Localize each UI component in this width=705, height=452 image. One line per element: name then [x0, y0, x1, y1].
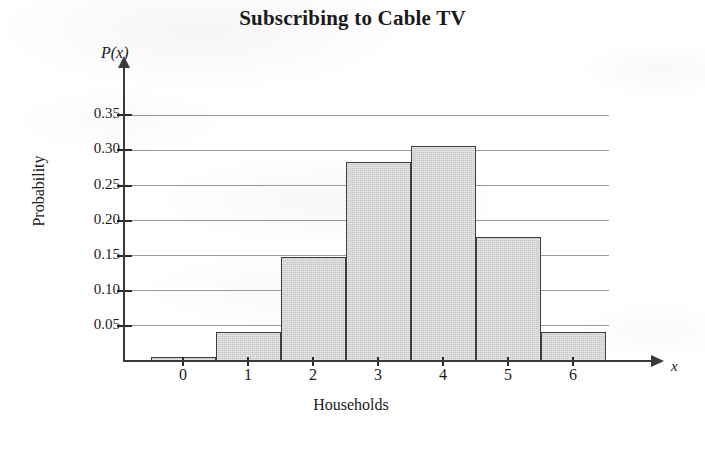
y-tick-label: 0.05 [74, 317, 120, 332]
y-tick-label: 0.25 [74, 177, 120, 192]
gridline [124, 115, 609, 116]
histogram-bar [281, 257, 346, 361]
x-tick-label: 1 [233, 366, 263, 384]
gridline [124, 150, 609, 151]
y-axis-arrow-icon [118, 56, 130, 68]
x-tick-label: 5 [493, 366, 523, 384]
x-tick-label: 3 [363, 366, 393, 384]
x-axis-line [123, 360, 655, 362]
y-axis-line [123, 66, 125, 362]
y-tick-label: 0.10 [74, 282, 120, 297]
histogram-plot: P(x) x Probability Households 0.050.100.… [0, 0, 705, 452]
x-tick-label: 4 [428, 366, 458, 384]
histogram-bar [476, 237, 541, 361]
y-tick-label: 0.20 [74, 212, 120, 227]
histogram-bar [346, 162, 411, 361]
x-axis-arrow-icon [651, 355, 664, 367]
y-axis-title: Probability [30, 116, 48, 266]
x-axis-symbol: x [671, 358, 678, 375]
x-tick-label: 0 [168, 366, 198, 384]
y-tick-label: 0.15 [74, 247, 120, 262]
x-tick-label: 2 [298, 366, 328, 384]
histogram-bar [411, 146, 476, 361]
y-tick-label: 0.30 [74, 141, 120, 156]
x-axis-title: Households [226, 396, 476, 414]
x-tick-label: 6 [558, 366, 588, 384]
y-tick-label: 0.35 [74, 106, 120, 121]
